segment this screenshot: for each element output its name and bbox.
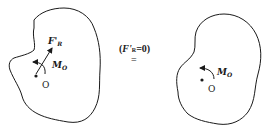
force-label: F'R — [47, 36, 62, 47]
left-moment-label: MO — [51, 60, 68, 71]
equals-sign: = — [131, 54, 137, 65]
right-point-o — [200, 78, 203, 81]
left-moment-arc — [33, 62, 45, 74]
right-moment-label: MO — [216, 67, 233, 78]
right-moment-arc — [200, 68, 214, 79]
condition-value: =0 — [136, 43, 147, 54]
right-point-label: O — [208, 84, 215, 94]
diagram-canvas: F'R MO O MO O — [0, 0, 271, 131]
resultant-force-arrow — [36, 48, 52, 74]
close-paren: ) — [147, 43, 150, 54]
condition-label: (F'R=0) — [119, 43, 150, 54]
left-point-label: O — [42, 80, 49, 90]
condition-force: F' — [122, 43, 131, 54]
left-point-o — [34, 74, 37, 77]
